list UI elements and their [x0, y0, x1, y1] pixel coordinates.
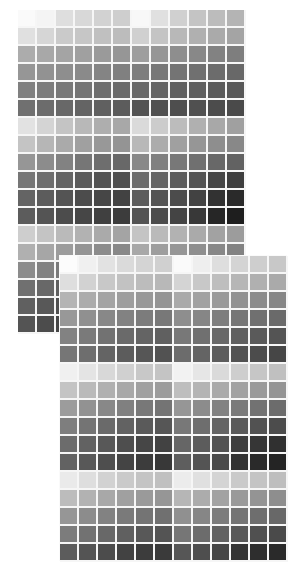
- tone-swatch: [56, 226, 75, 244]
- tone-swatch: [250, 418, 269, 436]
- tone-swatch: [79, 346, 98, 364]
- tone-swatch: [132, 118, 151, 136]
- tone-swatch: [189, 100, 208, 118]
- tone-swatch: [117, 472, 136, 490]
- tone-swatch: [56, 208, 75, 226]
- tone-swatch: [98, 472, 117, 490]
- tone-swatch: [155, 544, 174, 562]
- tone-swatch: [174, 526, 193, 544]
- tone-swatch: [136, 256, 155, 274]
- tone-swatch: [132, 100, 151, 118]
- tone-swatch: [208, 226, 227, 244]
- tone-swatch: [132, 28, 151, 46]
- tone-swatch: [212, 292, 231, 310]
- tone-swatch: [60, 508, 79, 526]
- tone-swatch: [98, 400, 117, 418]
- tone-swatch: [18, 118, 37, 136]
- tone-swatch: [113, 226, 132, 244]
- tone-swatch: [79, 310, 98, 328]
- tone-swatch: [117, 544, 136, 562]
- swatch-sheet-front: [60, 256, 288, 562]
- tone-swatch: [269, 436, 288, 454]
- tone-swatch: [60, 382, 79, 400]
- tone-swatch: [56, 190, 75, 208]
- tone-swatch: [250, 472, 269, 490]
- tone-swatch: [136, 526, 155, 544]
- tone-swatch: [37, 100, 56, 118]
- tone-swatch: [79, 400, 98, 418]
- tone-swatch: [79, 274, 98, 292]
- tone-swatch: [117, 274, 136, 292]
- tone-swatch: [56, 46, 75, 64]
- tone-swatch: [60, 292, 79, 310]
- tone-swatch: [231, 436, 250, 454]
- tone-swatch: [56, 64, 75, 82]
- tone-swatch: [155, 490, 174, 508]
- tone-swatch: [212, 346, 231, 364]
- tone-swatch: [174, 472, 193, 490]
- tone-swatch: [212, 544, 231, 562]
- tone-swatch: [75, 136, 94, 154]
- tone-swatch: [136, 274, 155, 292]
- tone-swatch: [75, 118, 94, 136]
- tone-swatch: [18, 298, 37, 316]
- tone-swatch: [269, 310, 288, 328]
- tone-swatch: [60, 400, 79, 418]
- tone-swatch: [113, 172, 132, 190]
- tone-swatch: [189, 154, 208, 172]
- tone-swatch: [94, 118, 113, 136]
- tone-swatch: [231, 454, 250, 472]
- tone-swatch: [193, 364, 212, 382]
- tone-swatch: [231, 400, 250, 418]
- tone-swatch: [117, 490, 136, 508]
- tone-swatch: [155, 454, 174, 472]
- tone-swatch: [212, 328, 231, 346]
- tone-swatch: [250, 274, 269, 292]
- tone-swatch: [132, 10, 151, 28]
- tone-swatch: [75, 28, 94, 46]
- tone-swatch: [117, 382, 136, 400]
- tone-swatch: [250, 544, 269, 562]
- tone-swatch: [132, 226, 151, 244]
- tone-swatch: [132, 82, 151, 100]
- tone-swatch: [193, 418, 212, 436]
- tone-swatch: [113, 154, 132, 172]
- tone-swatch: [170, 10, 189, 28]
- tone-swatch: [193, 328, 212, 346]
- tone-swatch: [56, 100, 75, 118]
- tone-swatch: [37, 46, 56, 64]
- tone-swatch: [98, 526, 117, 544]
- tone-swatch: [227, 118, 246, 136]
- tone-swatch: [250, 508, 269, 526]
- tone-swatch: [269, 364, 288, 382]
- tone-swatch: [212, 472, 231, 490]
- tone-swatch: [18, 10, 37, 28]
- tone-swatch: [193, 346, 212, 364]
- tone-swatch: [56, 172, 75, 190]
- tone-swatch: [269, 400, 288, 418]
- tone-swatch: [174, 508, 193, 526]
- tone-swatch: [113, 10, 132, 28]
- tone-swatch: [250, 310, 269, 328]
- tone-swatch: [56, 154, 75, 172]
- tone-swatch: [227, 28, 246, 46]
- tone-swatch: [189, 208, 208, 226]
- tone-swatch: [37, 154, 56, 172]
- tone-swatch: [79, 508, 98, 526]
- tone-swatch: [231, 292, 250, 310]
- tone-swatch: [155, 436, 174, 454]
- tone-swatch: [94, 46, 113, 64]
- tone-swatch: [117, 436, 136, 454]
- tone-swatch: [18, 28, 37, 46]
- tone-swatch: [113, 64, 132, 82]
- tone-swatch: [170, 118, 189, 136]
- tone-swatch: [170, 172, 189, 190]
- tone-swatch: [136, 436, 155, 454]
- tone-swatch: [189, 64, 208, 82]
- tone-swatch: [37, 316, 56, 334]
- tone-swatch: [212, 274, 231, 292]
- tone-swatch: [98, 454, 117, 472]
- tone-swatch: [193, 490, 212, 508]
- tone-swatch: [227, 154, 246, 172]
- tone-swatch: [132, 190, 151, 208]
